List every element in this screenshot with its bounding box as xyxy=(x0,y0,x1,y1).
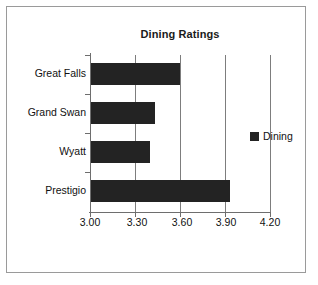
x-tick-label-3.00: 3.00 xyxy=(70,216,110,228)
x-tick-label-3.90: 3.90 xyxy=(206,216,246,228)
chart-title: Dining Ratings xyxy=(90,28,270,40)
x-tick-label-3.30: 3.30 xyxy=(117,216,157,228)
x-tick-label-4.20: 4.20 xyxy=(250,216,290,228)
dining-ratings-chart: Dining Ratings Great Falls Grand Swan Wy… xyxy=(0,0,318,285)
bar-great-falls[interactable] xyxy=(90,63,180,85)
category-label-prestigio: Prestigio xyxy=(6,184,86,196)
bar-wyatt[interactable] xyxy=(90,141,150,163)
legend-swatch-dining xyxy=(250,132,259,141)
bar-grand-swan[interactable] xyxy=(90,102,155,124)
category-label-great-falls: Great Falls xyxy=(6,67,86,79)
y-axis-line xyxy=(90,53,91,214)
plot-area xyxy=(90,55,270,212)
legend-label-dining: Dining xyxy=(263,130,293,142)
bar-prestigio[interactable] xyxy=(90,180,230,202)
category-label-grand-swan: Grand Swan xyxy=(6,106,86,118)
category-axis-labels: Great Falls Grand Swan Wyatt Prestigio xyxy=(4,55,86,212)
category-label-wyatt: Wyatt xyxy=(6,145,86,157)
chart-legend: Dining xyxy=(250,130,293,142)
x-tick-label-3.60: 3.60 xyxy=(162,216,202,228)
